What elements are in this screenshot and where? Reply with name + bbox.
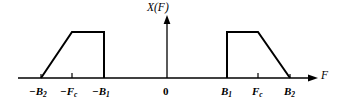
tick-label-pos-b1: B1 — [221, 86, 232, 97]
tick-label-neg-b1: −B1 — [92, 86, 110, 97]
negative-frequency-lobe — [41, 32, 104, 78]
tick-label-pos-fc: Fc — [252, 86, 263, 97]
tick-label-neg-b2: −B2 — [29, 86, 47, 97]
spectrum-figure: X(F) F 0 −B2 −Fc −B1 B1 Fc B2 — [0, 0, 340, 109]
frequency-axis-label: F — [321, 70, 328, 82]
tick-label-neg-fc: −Fc — [60, 86, 77, 97]
positive-frequency-lobe — [227, 32, 290, 78]
tick-label-pos-b2-sub: 2 — [291, 90, 295, 99]
tick-label-neg-b1-main: −B — [92, 85, 106, 97]
tick-label-neg-b1-sub: 1 — [106, 90, 110, 99]
amplitude-axis-label: X(F) — [147, 2, 169, 14]
origin-tick-label: 0 — [163, 86, 169, 97]
tick-label-pos-b1-sub: 1 — [228, 90, 232, 99]
tick-label-pos-fc-sub: c — [259, 90, 262, 99]
amplitude-axis-arrowhead — [164, 15, 171, 24]
tick-label-neg-b2-main: −B — [29, 85, 43, 97]
tick-label-neg-b2-sub: 2 — [43, 90, 47, 99]
tick-label-pos-b2: B2 — [284, 86, 295, 97]
tick-label-neg-fc-sub: c — [74, 90, 77, 99]
frequency-axis-arrowhead — [308, 75, 318, 82]
tick-label-neg-fc-main: −F — [60, 85, 74, 97]
